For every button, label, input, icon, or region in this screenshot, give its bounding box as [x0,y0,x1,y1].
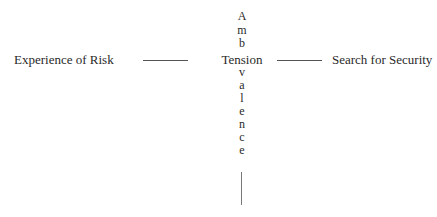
connector-right [277,60,322,61]
vertical-letter: a [232,79,252,91]
connector-left [143,60,188,61]
vertical-letter: e [232,105,252,117]
vertical-letter: A [232,10,252,22]
vertical-letter: l [232,92,252,104]
connector-vertical [241,172,242,205]
vertical-letter: m [232,24,252,36]
vertical-letter: n [232,118,252,130]
vertical-letter: c [232,131,252,143]
vertical-letter: b [232,37,252,49]
node-experience-of-risk: Experience of Risk [14,53,114,67]
node-search-for-security: Search for Security [332,53,432,67]
vertical-letter: v [232,66,252,78]
vertical-letter: e [232,144,252,156]
